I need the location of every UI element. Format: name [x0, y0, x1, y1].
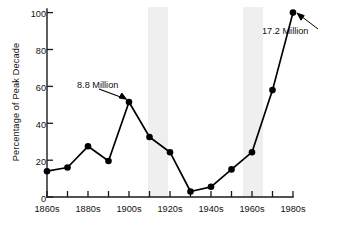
data-point-1880s [85, 143, 92, 150]
data-point-1980s [290, 9, 297, 16]
data-point-1930s [187, 188, 194, 195]
shaded-band-1920s [148, 7, 168, 197]
data-point-1950s [228, 166, 235, 173]
chart-figure: Percentage of Peak Decade 100 80 60 40 2… [0, 0, 339, 227]
data-point-1870s [64, 164, 71, 171]
annotation-arrow-head-17-2-million [297, 13, 304, 20]
data-point-1860s [44, 168, 51, 175]
data-point-1920s [167, 149, 174, 156]
annotation-arrow-head-8-8-million [119, 93, 126, 99]
data-point-1970s [269, 87, 276, 94]
data-point-1960s [249, 149, 256, 156]
shaded-band-group [148, 7, 263, 197]
data-point-1940s [208, 184, 215, 191]
annotation-arrows [99, 13, 318, 99]
data-point-1910s [146, 134, 153, 141]
chart-plot-area [0, 0, 339, 227]
data-point-1890s [105, 158, 112, 165]
shaded-band-1970s [243, 7, 263, 197]
